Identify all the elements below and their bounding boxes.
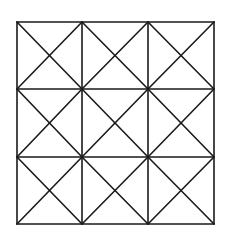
diagonal-lines <box>17 22 214 224</box>
grid-diagram <box>0 0 226 235</box>
diagram-canvas <box>0 0 226 235</box>
